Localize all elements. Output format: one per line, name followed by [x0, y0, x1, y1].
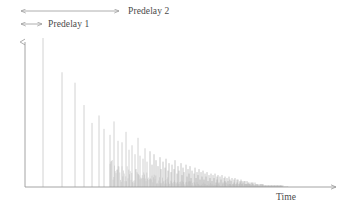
figure-container: Predelay 2 Predelay 1 Time	[0, 0, 352, 216]
time-axis-label: Time	[276, 192, 296, 202]
impulse-spikes	[43, 38, 288, 187]
impulse-response-plot	[0, 0, 352, 216]
predelay-1-label: Predelay 1	[48, 19, 89, 29]
predelay-2-label: Predelay 2	[128, 6, 169, 16]
